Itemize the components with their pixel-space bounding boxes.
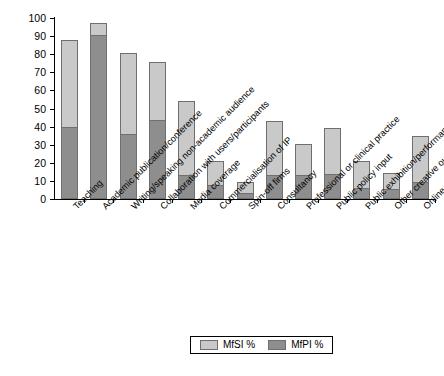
y-tick-mark-60 [50,90,55,91]
y-tick-label-20: 20 [24,158,46,168]
y-tick-label-10: 10 [24,176,46,186]
y-tick-label-0: 0 [24,194,46,204]
bar-segment-mfpi-2 [90,35,107,199]
stacked-bar-chart: 0102030405060708090100 TeachingAcademic … [0,0,444,376]
legend-label-mfpi: MfPI % [291,340,323,350]
bar-segment-mfpi-1 [61,127,78,199]
bar-segment-mfsi-1 [61,40,78,127]
y-tick-mark-90 [50,36,55,37]
bar-2 [90,23,107,199]
chart-legend: MfSI % MfPI % [190,336,333,354]
y-tick-label-100: 100 [24,13,46,23]
bar-segment-mfsi-10 [324,128,341,174]
y-tick-label-80: 80 [24,49,46,59]
y-tick-mark-30 [50,145,55,146]
y-tick-label-90: 90 [24,31,46,41]
y-tick-label-70: 70 [24,67,46,77]
y-tick-label-30: 30 [24,140,46,150]
legend-swatch-dark-gray [268,340,286,350]
y-tick-mark-40 [50,127,55,128]
bar-segment-mfsi-4 [149,62,166,120]
y-tick-label-50: 50 [24,104,46,114]
legend-entry-mfpi: MfPI % [268,340,323,350]
y-tick-mark-0 [50,199,55,200]
bar-segment-mfsi-2 [90,23,107,36]
y-tick-mark-100 [50,18,55,19]
y-tick-mark-20 [50,163,55,164]
y-tick-label-60: 60 [24,85,46,95]
y-tick-mark-10 [50,181,55,182]
legend-swatch-light-gray [200,340,218,350]
y-tick-mark-70 [50,72,55,73]
legend-label-mfsi: MfSI % [223,340,255,350]
bar-segment-mfsi-3 [120,53,137,134]
bar-1 [61,40,78,199]
y-tick-label-40: 40 [24,122,46,132]
y-tick-mark-80 [50,54,55,55]
legend-entry-mfsi: MfSI % [200,340,255,350]
y-tick-mark-50 [50,109,55,110]
